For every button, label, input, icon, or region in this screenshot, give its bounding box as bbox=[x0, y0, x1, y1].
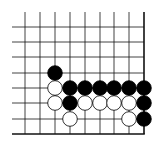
black-stone bbox=[137, 112, 152, 127]
black-stone bbox=[78, 81, 93, 96]
white-stone bbox=[48, 96, 63, 111]
black-stone bbox=[122, 81, 137, 96]
white-stone bbox=[122, 112, 137, 127]
go-board bbox=[0, 0, 164, 150]
white-stone bbox=[63, 112, 78, 127]
black-stone bbox=[63, 96, 78, 111]
white-stone bbox=[78, 96, 93, 111]
black-stone bbox=[48, 66, 63, 81]
white-stone bbox=[93, 96, 108, 111]
stones-layer bbox=[48, 66, 152, 127]
white-stone bbox=[107, 96, 122, 111]
black-stone bbox=[137, 96, 152, 111]
black-stone bbox=[107, 81, 122, 96]
white-stone bbox=[48, 81, 63, 96]
black-stone bbox=[137, 81, 152, 96]
black-stone bbox=[93, 81, 108, 96]
white-stone bbox=[122, 96, 137, 111]
black-stone bbox=[63, 81, 78, 96]
